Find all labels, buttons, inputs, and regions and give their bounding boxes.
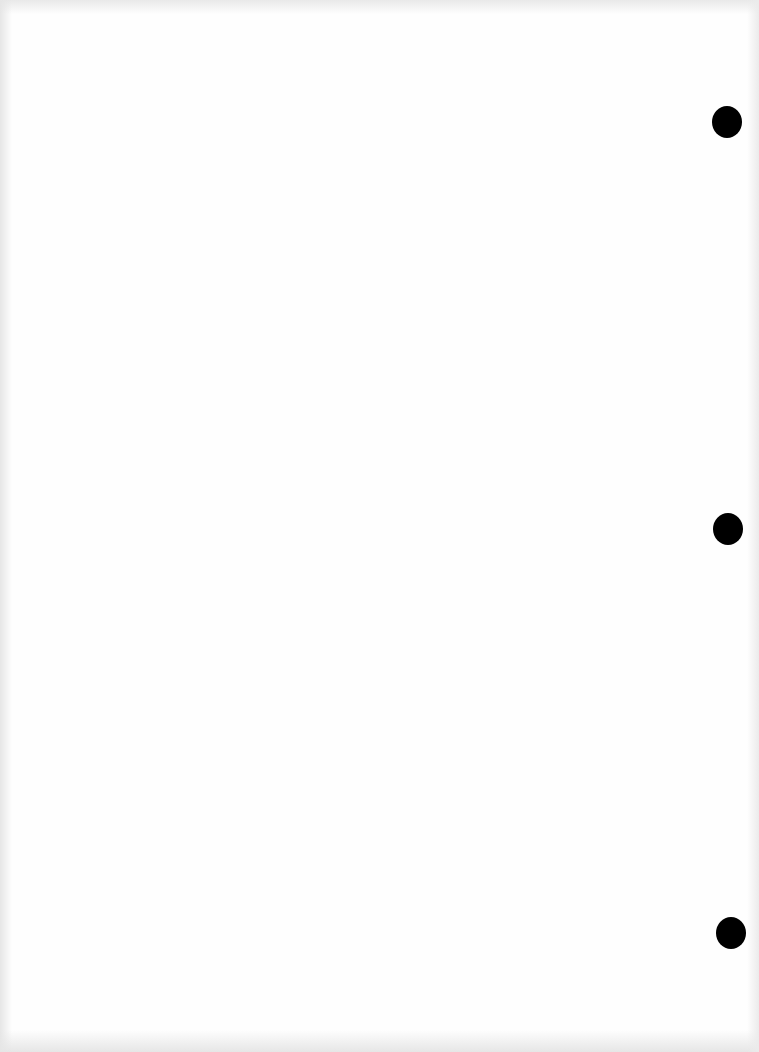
scan-edge-right: [747, 0, 759, 1052]
scan-edge-left: [0, 0, 12, 1052]
scan-edge-top: [0, 0, 759, 14]
punch-hole-middle: [713, 513, 743, 545]
scan-edge-bottom: [0, 1030, 759, 1052]
scanned-page: [0, 0, 759, 1052]
punch-hole-bottom: [716, 917, 746, 949]
punch-hole-top: [712, 106, 742, 138]
